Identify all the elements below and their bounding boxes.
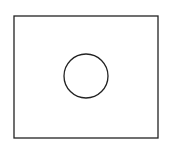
diagram-canvas — [0, 0, 174, 148]
outer-rectangle — [14, 16, 158, 138]
center-circle — [64, 54, 108, 98]
